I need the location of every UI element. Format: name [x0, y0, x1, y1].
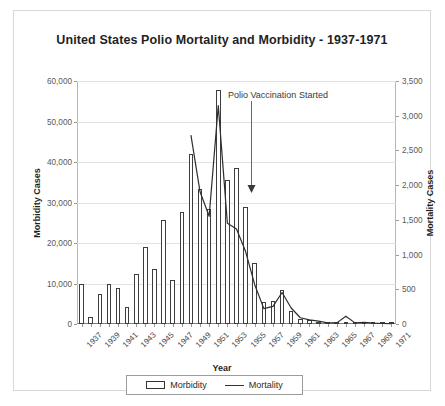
- x-tick-mark: [127, 324, 128, 327]
- bar-morbidity: [161, 220, 166, 324]
- legend-item-mortality[interactable]: Mortality: [225, 380, 283, 390]
- y-tick-label-right: 1,000: [402, 250, 423, 259]
- legend-swatch-bar-icon: [146, 381, 165, 389]
- y-tick-label-right: 2,500: [402, 146, 423, 155]
- y-tick-mark-left: [74, 122, 77, 123]
- x-tick-mark: [246, 324, 247, 327]
- x-axis-title: Year: [14, 363, 430, 373]
- y-axis-label-left-text: Morbidity Cases: [32, 168, 42, 238]
- y-tick-mark-right: [396, 81, 399, 82]
- y-tick-label-right: 3,000: [402, 111, 423, 120]
- x-tick-label: 1957: [267, 330, 286, 349]
- x-tick-mark: [237, 324, 238, 327]
- y-tick-label-right: 2,000: [402, 181, 423, 190]
- y-tick-mark-right: [396, 150, 399, 151]
- y-tick-mark-left: [74, 81, 77, 82]
- x-tick-label: 1959: [285, 330, 304, 349]
- x-tick-mark: [227, 324, 228, 327]
- y-tick-label-right: 500: [402, 285, 416, 294]
- bar-morbidity: [262, 302, 267, 324]
- y-tick-label-left: 50,000: [47, 117, 72, 126]
- y-tick-label-left: 30,000: [47, 198, 72, 207]
- x-tick-mark: [100, 324, 101, 327]
- x-tick-label: 1953: [230, 330, 249, 349]
- x-tick-mark: [154, 324, 155, 327]
- x-tick-label: 1955: [248, 330, 267, 349]
- x-tick-label: 1961: [303, 330, 322, 349]
- x-tick-label: 1943: [139, 330, 158, 349]
- y-tick-mark-left: [74, 324, 77, 325]
- x-tick-mark: [319, 324, 320, 327]
- x-tick-mark: [373, 324, 374, 327]
- y-tick-mark-left: [74, 162, 77, 163]
- bar-morbidity: [207, 209, 212, 324]
- y-tick-mark-left: [74, 243, 77, 244]
- x-tick-mark: [173, 324, 174, 327]
- x-tick-mark: [209, 324, 210, 327]
- x-tick-mark: [191, 324, 192, 327]
- bar-morbidity: [234, 168, 239, 324]
- x-tick-mark: [200, 324, 201, 327]
- bar-morbidity: [289, 311, 294, 324]
- y-tick-label-left: 60,000: [47, 77, 72, 86]
- bar-morbidity: [116, 288, 121, 324]
- x-tick-mark: [328, 324, 329, 327]
- legend-swatch-line-icon: [225, 385, 244, 386]
- bar-morbidity: [189, 154, 194, 324]
- x-tick-label: 1951: [212, 330, 231, 349]
- x-tick-mark: [300, 324, 301, 327]
- x-tick-mark: [291, 324, 292, 327]
- x-tick-mark: [355, 324, 356, 327]
- x-tick-mark: [391, 324, 392, 327]
- bar-morbidity: [271, 301, 276, 324]
- y-tick-label-right: 0: [402, 320, 407, 329]
- y-tick-mark-right: [396, 255, 399, 256]
- y-tick-label-left: 0: [67, 320, 72, 329]
- y-tick-label-left: 10,000: [47, 279, 72, 288]
- x-tick-mark: [382, 324, 383, 327]
- x-tick-mark: [145, 324, 146, 327]
- plot-area: 010,00020,00030,00040,00050,00060,000 05…: [77, 81, 396, 324]
- x-tick-label: 1969: [376, 330, 395, 349]
- x-tick-mark: [264, 324, 265, 327]
- x-tick-label: 1963: [321, 330, 340, 349]
- bar-morbidity: [134, 274, 139, 324]
- bar-morbidity: [170, 280, 175, 324]
- bar-morbidity: [88, 317, 93, 324]
- chart-container: United States Polio Mortality and Morbid…: [13, 10, 431, 391]
- chart-title: United States Polio Mortality and Morbid…: [14, 33, 430, 47]
- bar-morbidity: [180, 212, 185, 324]
- x-tick-mark: [136, 324, 137, 327]
- x-tick-mark: [364, 324, 365, 327]
- x-tick-label: 1967: [358, 330, 377, 349]
- bar-morbidity: [216, 90, 221, 324]
- gridline: [77, 81, 396, 82]
- bar-morbidity: [280, 290, 285, 324]
- x-tick-mark: [164, 324, 165, 327]
- y-tick-mark-left: [74, 284, 77, 285]
- legend-label-morbidity: Morbidity: [170, 380, 207, 390]
- x-tick-label: 1949: [194, 330, 213, 349]
- bar-morbidity: [152, 269, 157, 324]
- legend-label-mortality: Mortality: [249, 380, 283, 390]
- x-tick-mark: [346, 324, 347, 327]
- x-tick-mark: [337, 324, 338, 327]
- x-tick-mark: [82, 324, 83, 327]
- x-tick-mark: [218, 324, 219, 327]
- x-tick-mark: [255, 324, 256, 327]
- x-tick-label: 1941: [121, 330, 140, 349]
- x-tick-mark: [182, 324, 183, 327]
- y-tick-mark-right: [396, 289, 399, 290]
- bar-morbidity: [198, 189, 203, 324]
- bar-morbidity: [98, 294, 103, 324]
- annotation-vaccination-arrow-icon: [247, 101, 256, 194]
- x-tick-label: 1947: [175, 330, 194, 349]
- x-tick-mark: [273, 324, 274, 327]
- y-tick-mark-right: [396, 220, 399, 221]
- legend-item-morbidity[interactable]: Morbidity: [146, 380, 207, 390]
- x-tick-mark: [118, 324, 119, 327]
- annotation-vaccination-label: Polio Vaccination Started: [228, 90, 328, 100]
- bar-morbidity: [225, 180, 230, 324]
- x-tick-mark: [309, 324, 310, 327]
- y-tick-mark-right: [396, 324, 399, 325]
